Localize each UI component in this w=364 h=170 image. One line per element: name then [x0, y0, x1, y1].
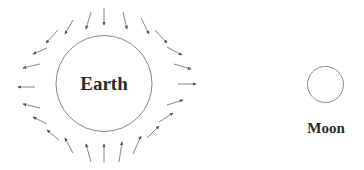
arrow-line	[174, 64, 191, 69]
arrow-line	[141, 18, 149, 34]
earth: Earth	[56, 36, 152, 132]
arrow-line	[167, 47, 182, 55]
force-arrow	[46, 30, 58, 43]
arrow-line	[23, 104, 40, 108]
force-arrow	[65, 20, 73, 34]
force-arrow	[123, 12, 127, 29]
force-arrow	[33, 48, 47, 54]
force-arrow	[47, 130, 59, 140]
force-arrow	[23, 104, 40, 108]
arrow-line	[23, 64, 40, 68]
arrow-line	[167, 100, 183, 105]
force-arrow	[65, 138, 73, 153]
moon-label: Moon	[307, 120, 345, 136]
arrow-line	[147, 126, 159, 138]
arrow-line	[46, 30, 58, 43]
force-arrow	[159, 113, 173, 122]
arrow-line	[47, 130, 59, 140]
force-arrow	[174, 64, 191, 69]
force-arrow	[147, 126, 159, 138]
moon-circle	[308, 67, 344, 103]
arrow-line	[65, 20, 73, 34]
force-arrow	[86, 12, 91, 29]
force-arrow	[133, 136, 141, 154]
tidal-force-diagram: Earth Moon	[0, 0, 364, 170]
force-arrow	[23, 64, 40, 68]
arrow-line	[86, 144, 91, 162]
arrow-line	[33, 48, 47, 54]
force-arrow	[167, 47, 182, 55]
force-arrow	[86, 144, 91, 162]
force-arrow	[155, 30, 167, 43]
force-arrow	[119, 142, 122, 162]
arrow-line	[33, 117, 47, 124]
earth-label: Earth	[80, 73, 128, 94]
arrow-line	[155, 30, 167, 43]
force-arrow	[33, 117, 47, 124]
arrow-line	[133, 136, 141, 154]
arrow-line	[159, 113, 173, 122]
moon: Moon	[307, 67, 345, 137]
force-arrow	[141, 18, 149, 34]
arrow-line	[123, 12, 127, 29]
force-arrow	[167, 100, 183, 105]
arrow-line	[119, 142, 122, 162]
arrow-line	[65, 138, 73, 153]
arrow-line	[86, 12, 91, 29]
